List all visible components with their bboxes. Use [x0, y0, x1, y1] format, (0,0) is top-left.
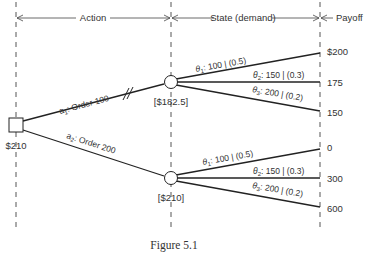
payoff-a1-theta3: 150 [327, 107, 343, 118]
chance-node-a2-value: [$210] [158, 192, 184, 203]
payoff-a1-theta2: 175 [327, 77, 343, 88]
decision-tree-diagram: Action State (demand) Payoff a1: Order 1… [0, 0, 368, 258]
branch-label-a1-theta2: θ2: 150 | (0.3) [253, 70, 304, 81]
payoff-a2-theta2: 300 [327, 173, 343, 184]
chance-branches-a1 [176, 53, 320, 111]
header-state-label: State (demand) [210, 12, 275, 23]
payoff-a2-theta1: 0 [327, 142, 332, 153]
header-payoff-label: Payoff [336, 12, 363, 23]
chance-node-a2 [165, 172, 178, 185]
decision-node-square [9, 118, 23, 132]
payoff-a1-theta1: $200 [327, 46, 348, 57]
action-branch-a2 [23, 130, 164, 176]
branch-label-a1-theta1: θ1: 100 | (0.5) [195, 55, 248, 75]
chance-node-a1 [165, 76, 178, 89]
payoff-column: $200 175 150 0 300 600 [327, 46, 348, 214]
branch-label-a2-theta2: θ2: 150 | (0.3) [253, 166, 304, 177]
header-action-label: Action [80, 12, 106, 23]
figure-caption: Figure 5.1 [150, 239, 198, 252]
decision-node-value: $210 [5, 140, 26, 151]
branch-label-a1-theta3: θ3: 200 | (0.2) [251, 84, 304, 104]
chance-node-a1-value: [$182.5] [154, 96, 188, 107]
header-dimension-lines [17, 15, 333, 21]
branch-label-a2-theta3: θ3: 200 | (0.2) [251, 180, 304, 200]
payoff-a2-theta3: 600 [327, 203, 343, 214]
action-label-a1: a1: Order 100 [58, 93, 110, 117]
